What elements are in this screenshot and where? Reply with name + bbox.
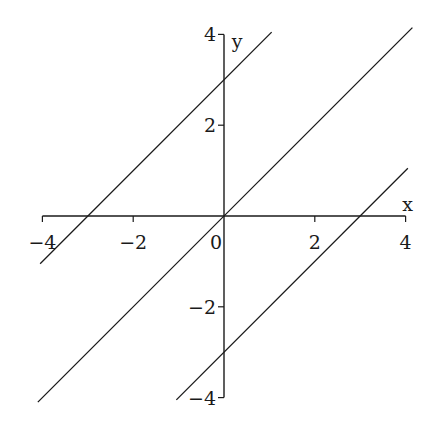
x-tick-label: −2 (119, 231, 147, 253)
x-tick-label: −4 (28, 231, 56, 253)
x-tick-label: 4 (400, 231, 412, 253)
plot-area: −4−2024−4−224xy (0, 0, 438, 440)
y-tick-label: 4 (204, 23, 216, 45)
series-line (38, 28, 413, 403)
y-tick-label: −2 (188, 296, 216, 318)
data-lines (38, 28, 413, 403)
x-axis-label: x (402, 193, 413, 215)
series-line (40, 32, 272, 264)
x-tick-label: 0 (210, 231, 222, 253)
y-tick-label: −4 (188, 387, 216, 409)
y-axis-label: y (231, 30, 243, 52)
x-tick-label: 2 (309, 231, 321, 253)
series-line (176, 168, 408, 400)
y-tick-label: 2 (204, 114, 216, 136)
